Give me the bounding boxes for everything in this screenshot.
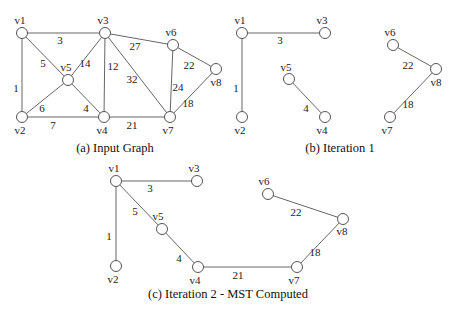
node-label: v5 [61,61,73,73]
node-v8 [431,64,442,75]
node-label: v7 [163,124,175,136]
edge-weight-label: 5 [132,205,138,217]
node-label: v1 [15,14,26,26]
edge-weight-label: 18 [183,97,195,109]
node-label: v7 [382,124,394,136]
node-v3 [320,28,331,39]
node-v5 [63,75,74,86]
node-v7 [292,262,303,273]
node-v5 [157,224,168,235]
node-label: v6 [166,26,178,38]
node-label: v4 [97,124,109,136]
node-label: v5 [153,210,165,222]
node-label: v6 [259,175,271,187]
node-v2 [17,112,28,123]
node-label: v4 [190,274,202,286]
node-label: v5 [281,61,293,73]
node-label: v1 [235,14,246,26]
edge-weight-label: 27 [130,40,142,52]
panel-b-iteration-1: 3142218v1v3v5v4v2v6v8v7(b) Iteration 1 [233,14,442,155]
edge-weight-label: 22 [403,59,414,71]
edge-v7-v8 [170,69,216,117]
node-v4 [99,112,110,123]
edge-weight-label: 21 [127,119,138,131]
node-v5 [284,74,295,85]
node-label: v3 [98,14,110,26]
edge-weight-label: 4 [303,102,309,114]
node-label: v1 [109,162,120,174]
panel-caption: (c) Iteration 2 - MST Computed [148,287,309,301]
node-v1 [237,28,248,39]
edge-weight-label: 22 [291,206,302,218]
edge-weight-label: 7 [50,119,56,131]
edge-weight-label: 18 [310,246,322,258]
node-v2 [111,261,122,272]
node-label: v8 [211,76,223,88]
node-label: v8 [431,76,443,88]
edge-weight-label: 21 [233,269,244,281]
node-label: v6 [385,26,397,38]
edge-weight-label: 18 [403,98,415,110]
node-label: v7 [289,274,301,286]
edge-v5-v2 [22,80,68,117]
node-v8 [338,214,349,225]
edge-weight-label: 5 [40,57,46,69]
node-v1 [17,28,28,39]
edge-v6-v8 [268,194,343,219]
node-label: v4 [317,124,329,136]
panel-caption: (a) Input Graph [76,141,154,155]
node-label: v3 [189,162,201,174]
node-v6 [263,189,274,200]
panel-caption: (b) Iteration 1 [305,141,374,155]
edge-weight-label: 22 [184,59,195,71]
edge-weight-label: 4 [83,102,89,114]
node-v4 [320,112,331,123]
edge-weight-label: 24 [173,81,185,93]
node-v6 [168,40,179,51]
node-label: v2 [108,273,119,285]
edge-weight-label: 3 [277,34,283,46]
edge-weight-label: 4 [176,252,182,264]
edge-v6-v8 [393,45,436,69]
edge-weight-label: 12 [108,60,119,72]
node-label: v2 [235,124,246,136]
edge-weight-label: 3 [57,34,63,46]
edge-weight-label: 1 [106,230,112,242]
node-v7 [385,112,396,123]
edge-weight-label: 6 [39,102,45,114]
node-v6 [388,40,399,51]
node-label: v3 [317,14,329,26]
node-v3 [192,176,203,187]
edge-weight-label: 14 [80,57,92,69]
node-v1 [111,176,122,187]
node-label: v8 [337,225,349,237]
edge-weight-label: 1 [233,82,239,94]
node-v8 [211,64,222,75]
node-v7 [165,112,176,123]
node-label: v2 [15,124,26,136]
panel-c-iteration-2-mst: 3154212218v1v3v5v2v4v7v6v8(c) Iteration … [106,162,348,301]
edge-weight-label: 3 [147,182,153,194]
edge-v6-v8 [173,45,216,69]
edge-weight-label: 1 [13,82,19,94]
node-v2 [237,112,248,123]
node-v4 [193,262,204,273]
edge-v3-v4 [104,33,105,117]
panel-a-input-graph: 3151412322764721242218v1v3v6v5v8v2v4v7(a… [13,14,222,155]
edge-weight-label: 32 [127,73,138,85]
node-v3 [100,28,111,39]
mst-diagram: 3151412322764721242218v1v3v6v5v8v2v4v7(a… [0,0,454,318]
